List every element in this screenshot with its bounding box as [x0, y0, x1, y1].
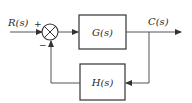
input-label: R(s): [7, 17, 29, 28]
plus-sign: +: [34, 19, 42, 29]
block-diagram: R(s) + − G(s) C(s) H(s): [0, 0, 192, 103]
minus-sign: −: [39, 40, 47, 50]
summing-junction: [42, 24, 58, 40]
feedback-return-line: [51, 41, 80, 83]
feedback-block-label: H(s): [91, 77, 114, 88]
feedback-tap-line: [126, 32, 149, 83]
forward-block-label: G(s): [92, 27, 113, 38]
output-label: C(s): [148, 16, 169, 27]
